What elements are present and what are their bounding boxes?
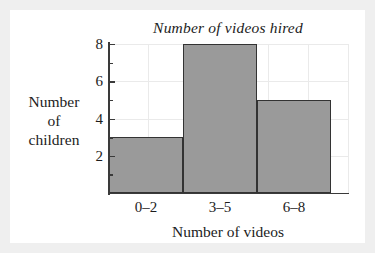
y-axis-tick-label: 2 [96, 148, 104, 163]
tick-mark [108, 44, 115, 45]
tick-mark [108, 100, 113, 101]
x-axis-line [108, 193, 349, 194]
tick-mark [108, 156, 115, 157]
tick-mark [108, 81, 115, 82]
histogram-figure: Number of videos hired Number of childre… [10, 10, 365, 243]
x-axis-title: Number of videos [108, 223, 348, 241]
y-axis-title: Number of children [12, 92, 96, 149]
tick-mark [108, 137, 113, 138]
bar [183, 44, 257, 193]
y-axis-tick-label: 8 [96, 37, 104, 52]
y-axis-tick-label: 4 [96, 111, 104, 126]
y-axis-title-line-1: Number [12, 92, 96, 111]
x-axis-tick-label: 6–8 [283, 199, 306, 216]
bar [109, 137, 183, 193]
x-axis-tick-label: 3–5 [209, 199, 232, 216]
chart-card: Number of videos hired Number of childre… [10, 10, 365, 243]
gridline-vertical [348, 44, 349, 193]
chart-title: Number of videos hired [108, 19, 348, 37]
y-axis-tick-label: 6 [96, 74, 104, 89]
tick-mark [108, 63, 113, 64]
tick-mark [108, 174, 113, 175]
plot-area: 8642 0–23–56–8 [108, 44, 348, 193]
bar [257, 100, 331, 193]
y-axis-title-line-2: of [12, 111, 96, 130]
y-axis-title-line-3: children [12, 130, 96, 149]
tick-mark [108, 119, 115, 120]
x-axis-tick-label: 0–2 [135, 199, 158, 216]
